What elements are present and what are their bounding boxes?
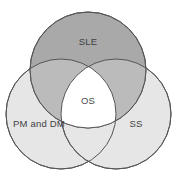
venn-label-sle: SLE (79, 36, 98, 47)
venn-label-ss: SS (129, 118, 142, 129)
venn-diagram-canvas: SLE PM and DM SS OS (0, 0, 177, 181)
venn-label-os: OS (81, 95, 95, 106)
venn-label-pm-and-dm: PM and DM (13, 118, 65, 129)
venn-diagram-figure: SLE PM and DM SS OS (0, 0, 177, 181)
